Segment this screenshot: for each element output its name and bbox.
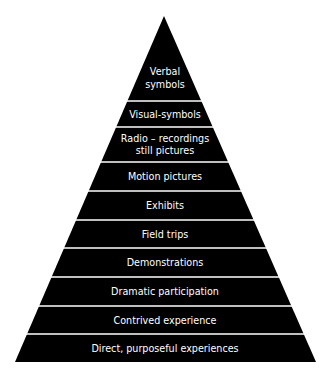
- band-label-8: Contrived experience: [114, 315, 217, 326]
- band-label-7: Dramatic participation: [111, 286, 219, 297]
- band-label-6: Demonstrations: [127, 257, 204, 268]
- band-label-5: Field trips: [142, 229, 189, 240]
- cone-of-experience-pyramid: VerbalsymbolsVisual-symbolsRadio – recor…: [0, 0, 329, 377]
- band-label-1: Visual-symbols: [129, 109, 201, 120]
- band-label-4: Exhibits: [146, 200, 184, 211]
- band-label-0: Verbalsymbols: [145, 66, 185, 90]
- band-label-3: Motion pictures: [128, 171, 202, 182]
- band-label-9: Direct, purposeful experiences: [91, 343, 238, 354]
